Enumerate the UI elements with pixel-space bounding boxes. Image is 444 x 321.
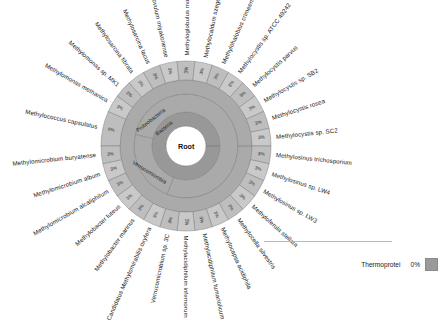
species-percent: 6% (108, 127, 116, 133)
legend-label: Thermoprotei (361, 261, 400, 268)
legend[interactable]: Thermoprotei 0% (361, 258, 438, 271)
legend-percent: 0% (410, 261, 420, 268)
species-percent: 3% (167, 67, 173, 75)
legend-swatch[interactable] (425, 258, 438, 271)
species-label[interactable]: Methyloglobulus morosus (183, 0, 190, 56)
legend-leader-line (264, 241, 392, 242)
species-percent: 3% (107, 151, 114, 157)
species-percent: 3% (258, 151, 265, 157)
species-percent: 3% (184, 66, 189, 73)
species-label[interactable]: Methylacidiphilum infernorum (183, 236, 190, 318)
root-label: Root (178, 142, 194, 151)
species-percent: 3% (184, 218, 189, 225)
